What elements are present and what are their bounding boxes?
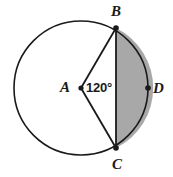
point-marker-B (113, 25, 119, 31)
radius-line-AB (81, 28, 116, 88)
point-label-b: B (111, 4, 121, 19)
radius-line-AC (81, 88, 116, 148)
point-marker-C (113, 145, 119, 151)
point-label-d: D (153, 81, 164, 96)
point-label-a: A (60, 80, 70, 95)
point-marker-A (78, 85, 83, 90)
point-label-c: C (112, 157, 122, 172)
geometry-figure: A B C D 120° (0, 0, 173, 177)
point-marker-D (145, 85, 151, 91)
central-angle-label: 120° (86, 81, 112, 94)
